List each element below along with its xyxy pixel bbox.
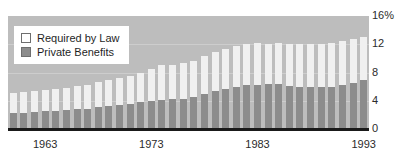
bar-segment-required-by-law — [116, 78, 123, 105]
bar-1978 — [201, 16, 208, 129]
y-axis: 16%12840 — [372, 0, 402, 140]
x-axis-tick-1993: 1993 — [351, 138, 375, 150]
bar-1975 — [169, 16, 176, 129]
chart-legend: Required by Law Private Benefits — [14, 26, 129, 64]
bar-segment-private-benefits — [95, 107, 102, 129]
bar-segment-required-by-law — [74, 86, 81, 109]
bar-1990 — [328, 16, 335, 129]
bar-segment-required-by-law — [158, 65, 165, 100]
bar-segment-required-by-law — [84, 85, 91, 109]
clipped-title-text — [6, 0, 126, 7]
bar-1983 — [254, 16, 261, 129]
bar-segment-required-by-law — [137, 73, 144, 103]
bar-segment-required-by-law — [52, 89, 59, 111]
x-axis-baseline — [8, 128, 369, 131]
y-axis-tick-4: 4 — [372, 95, 378, 106]
bar-segment-private-benefits — [105, 106, 112, 129]
y-axis-tick-16: 16% — [372, 10, 394, 21]
bar-segment-private-benefits — [180, 99, 187, 129]
bar-segment-private-benefits — [318, 87, 325, 129]
bar-segment-required-by-law — [360, 37, 367, 80]
bar-segment-private-benefits — [42, 111, 49, 129]
bar-segment-required-by-law — [222, 49, 229, 89]
x-axis-tick-1973: 1973 — [139, 138, 163, 150]
bar-1977 — [190, 16, 197, 129]
bar-segment-required-by-law — [339, 41, 346, 85]
x-axis-tick-1963: 1963 — [33, 138, 57, 150]
bar-1992 — [350, 16, 357, 129]
bar-segment-required-by-law — [233, 46, 240, 87]
bar-segment-private-benefits — [275, 84, 282, 129]
bar-segment-required-by-law — [10, 93, 17, 113]
legend-swatch-required-by-law-icon — [21, 33, 31, 43]
bar-1980 — [222, 16, 229, 129]
bar-segment-required-by-law — [105, 80, 112, 106]
bar-segment-private-benefits — [201, 94, 208, 129]
bar-segment-private-benefits — [190, 97, 197, 129]
bar-segment-required-by-law — [212, 52, 219, 91]
bar-segment-required-by-law — [265, 44, 272, 84]
bar-segment-private-benefits — [222, 89, 229, 129]
bar-segment-private-benefits — [31, 112, 38, 129]
bar-1985 — [275, 16, 282, 129]
bar-segment-private-benefits — [233, 87, 240, 129]
bar-segment-required-by-law — [148, 69, 155, 101]
bar-segment-private-benefits — [148, 101, 155, 129]
bar-segment-required-by-law — [95, 82, 102, 107]
bar-segment-private-benefits — [360, 80, 367, 129]
bar-segment-required-by-law — [254, 43, 261, 85]
bar-segment-private-benefits — [20, 113, 27, 129]
bar-segment-required-by-law — [42, 90, 49, 111]
bar-segment-required-by-law — [350, 39, 357, 83]
legend-item-required-by-law: Required by Law — [21, 31, 120, 45]
bar-segment-private-benefits — [52, 111, 59, 129]
bar-segment-required-by-law — [20, 92, 27, 112]
bar-1993 — [360, 16, 367, 129]
bar-segment-required-by-law — [286, 44, 293, 86]
bar-1972 — [137, 16, 144, 129]
bar-segment-required-by-law — [127, 76, 134, 104]
bar-1976 — [180, 16, 187, 129]
bar-segment-private-benefits — [169, 99, 176, 129]
bar-segment-required-by-law — [307, 44, 314, 87]
bar-segment-private-benefits — [243, 85, 250, 129]
bar-segment-required-by-law — [296, 44, 303, 87]
legend-item-private-benefits: Private Benefits — [21, 45, 120, 59]
bar-segment-private-benefits — [328, 87, 335, 129]
bar-segment-private-benefits — [254, 85, 261, 129]
bar-1982 — [243, 16, 250, 129]
bar-segment-private-benefits — [212, 91, 219, 129]
y-axis-tick-12: 12 — [372, 38, 384, 49]
bar-segment-private-benefits — [296, 87, 303, 129]
bar-segment-private-benefits — [127, 104, 134, 129]
bar-segment-required-by-law — [243, 44, 250, 86]
bar-segment-required-by-law — [63, 88, 70, 110]
bar-1974 — [158, 16, 165, 129]
bar-segment-required-by-law — [201, 56, 208, 93]
bar-segment-private-benefits — [286, 86, 293, 129]
bar-segment-required-by-law — [328, 43, 335, 87]
bar-segment-private-benefits — [350, 83, 357, 129]
bar-1984 — [265, 16, 272, 129]
bar-segment-required-by-law — [31, 91, 38, 112]
x-axis-tick-1983: 1983 — [245, 138, 269, 150]
bar-segment-required-by-law — [180, 63, 187, 98]
bar-segment-private-benefits — [307, 87, 314, 129]
bar-segment-private-benefits — [339, 85, 346, 129]
x-axis: 1963197319831993 — [0, 138, 402, 156]
bar-segment-private-benefits — [74, 109, 81, 129]
bar-segment-private-benefits — [10, 113, 17, 129]
benefits-stacked-bar-chart: 16%12840 1963197319831993 Required by La… — [0, 0, 402, 162]
legend-label-required-by-law: Required by Law — [37, 32, 120, 44]
bar-segment-required-by-law — [275, 43, 282, 84]
legend-label-private-benefits: Private Benefits — [37, 46, 114, 58]
bar-1979 — [212, 16, 219, 129]
bar-segment-required-by-law — [190, 61, 197, 97]
y-axis-tick-8: 8 — [372, 67, 378, 78]
bar-1988 — [307, 16, 314, 129]
bar-segment-private-benefits — [63, 110, 70, 129]
legend-swatch-private-benefits-icon — [21, 47, 31, 57]
bar-segment-private-benefits — [84, 109, 91, 129]
bar-1973 — [148, 16, 155, 129]
y-axis-tick-0: 0 — [372, 123, 378, 134]
